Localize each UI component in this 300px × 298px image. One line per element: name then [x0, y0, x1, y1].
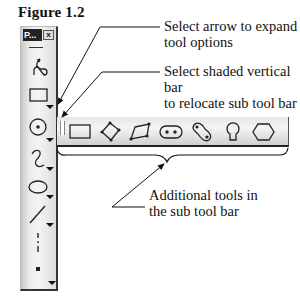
ellipse-tool-button[interactable] [26, 173, 54, 201]
toolbar-separator [29, 47, 43, 48]
point-tool-button[interactable] [26, 257, 54, 285]
hexagon-icon [250, 119, 278, 145]
profile-icon [26, 53, 54, 81]
cylindrical-hole-icon [189, 119, 217, 145]
subtool-keyhole-profile[interactable] [220, 119, 248, 145]
subtool-hexagon[interactable] [250, 119, 278, 145]
subtool-oriented-rectangle[interactable] [97, 119, 125, 145]
drag-handle[interactable] [60, 121, 65, 135]
callout-additional-tools: Additional tools in the sub tool bar [149, 187, 258, 219]
figure-title: Figure 1.2 [18, 4, 85, 21]
axis-tool-button[interactable] [26, 229, 54, 257]
elongated-hole-icon [158, 119, 186, 145]
keyhole-icon [220, 119, 248, 145]
callout-shaded-bar: Select shaded vertical bar to relocate s… [164, 63, 300, 111]
callout-text: tool options [164, 34, 297, 50]
callout-text: Select shaded vertical bar [164, 63, 300, 95]
toolbar-title: P... [23, 29, 42, 41]
profile-tool-button[interactable] [26, 53, 54, 81]
sub-toolbar [57, 117, 289, 147]
expand-arrow-icon[interactable] [46, 167, 54, 171]
expand-arrow-icon[interactable] [46, 195, 54, 199]
callout-expand-arrow: Select arrow to expand tool options [164, 18, 297, 50]
expand-arrow-icon[interactable] [48, 281, 56, 285]
callout-text: to relocate sub tool bar [164, 95, 300, 111]
axis-icon [26, 229, 54, 257]
expand-arrow-icon[interactable] [46, 105, 54, 109]
leader-line-expand-arrow [58, 27, 160, 104]
arc-tool-button[interactable] [26, 145, 54, 173]
subtool-rectangle[interactable] [67, 119, 95, 145]
line-tool-button[interactable] [26, 201, 54, 229]
rectangle-icon [67, 119, 95, 145]
toolbar-titlebar[interactable]: P... x [23, 29, 53, 41]
callout-text: the sub tool bar [149, 203, 258, 219]
expand-arrow-icon[interactable] [46, 138, 54, 142]
close-button[interactable]: x [43, 30, 54, 40]
circle-tool-button[interactable] [26, 113, 54, 141]
rectangle-tool-button[interactable] [26, 83, 54, 111]
oriented-rectangle-icon [97, 119, 125, 145]
leader-line-shaded-bar [62, 72, 160, 117]
profile-toolbar: P... x [20, 26, 58, 291]
circle-center-icon [26, 113, 54, 141]
subtool-elongated-hole[interactable] [158, 119, 186, 145]
expand-arrow-icon[interactable] [46, 223, 54, 227]
brace [57, 148, 288, 162]
parallelogram-icon [127, 119, 155, 145]
callout-text: Select arrow to expand [164, 18, 297, 34]
callout-text: Additional tools in [149, 187, 258, 203]
subtool-cylindrical-elongated-hole[interactable] [189, 119, 217, 145]
subtool-parallelogram[interactable] [127, 119, 155, 145]
